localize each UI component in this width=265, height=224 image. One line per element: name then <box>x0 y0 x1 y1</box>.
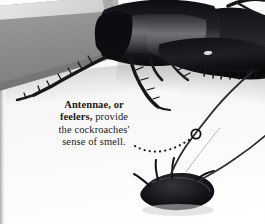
caption-line-3: the cockroaches' <box>44 124 144 136</box>
antenna-right <box>196 135 265 182</box>
caption-line-1: Antennae, or <box>44 99 144 111</box>
antennae-caption: Antennae, or feelers, provide the cockro… <box>44 99 144 148</box>
antenna-left <box>170 72 252 176</box>
caption-line-2: feelers, provide <box>44 111 144 123</box>
caption-line-2-bold: feelers, <box>60 111 93 122</box>
lower-cockroach-specimen <box>134 72 265 216</box>
caption-line-1-bold: Antennae, or <box>64 99 124 110</box>
cockroach-antennae-figure: Antennae, or feelers, provide the cockro… <box>0 0 265 224</box>
caption-line-2-rest: provide <box>93 111 129 122</box>
upper-cockroach-specimen <box>95 0 265 80</box>
caption-line-4: sense of smell. <box>44 136 144 148</box>
